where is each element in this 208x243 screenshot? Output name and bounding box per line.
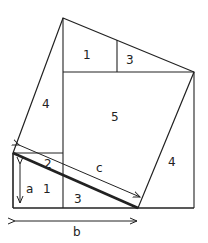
arrow-c-icon bbox=[19, 145, 140, 197]
label-side-a: a bbox=[26, 182, 33, 196]
label-region-2-strip: 2 bbox=[44, 157, 52, 171]
label-region-3-bottom: 3 bbox=[74, 192, 82, 206]
label-side-b: b bbox=[73, 225, 81, 239]
label-side-c: c bbox=[96, 161, 103, 175]
label-region-1-top: 1 bbox=[83, 48, 91, 62]
pythagorean-diagram: 1 3 4 5 4 2 c a 1 3 b bbox=[0, 0, 208, 243]
diagram-canvas: 1 3 4 5 4 2 c a 1 3 b bbox=[0, 0, 208, 243]
label-region-3-top: 3 bbox=[126, 53, 134, 67]
label-region-4-right: 4 bbox=[168, 155, 176, 169]
label-region-5-center: 5 bbox=[111, 110, 119, 124]
label-region-4-left: 4 bbox=[42, 97, 50, 111]
hypotenuse-square bbox=[13, 18, 194, 208]
label-region-1-bottom: 1 bbox=[43, 182, 51, 196]
